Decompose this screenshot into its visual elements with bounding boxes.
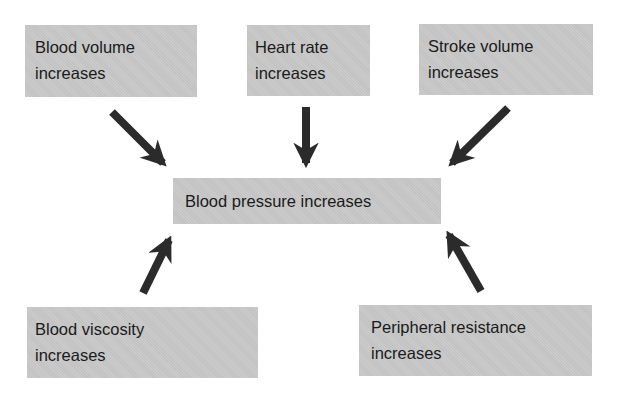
cause-label-line2: increases [371,340,582,366]
cause-label-line1: Peripheral resistance [371,314,582,340]
cause-label-line1: Stroke volume [428,33,583,59]
cause-box-blood-viscosity: Blood viscosity increases [27,307,258,378]
cause-label-line2: increases [35,342,248,368]
cause-box-heart-rate: Heart rate increases [247,25,370,96]
cause-label-line1: Heart rate [255,34,360,60]
cause-label-line2: increases [428,59,583,85]
cause-box-blood-volume: Blood volume increases [25,25,197,97]
cause-box-stroke-volume: Stroke volume increases [419,24,593,95]
cause-label-line1: Blood volume [35,34,187,60]
cause-label-line2: increases [35,60,187,86]
cause-label-line2: increases [255,60,360,86]
cause-box-peripheral-resistance: Peripheral resistance increases [359,305,592,376]
arrow-peripheral-resistance-to-pressure [449,235,481,291]
cause-label-line1: Blood viscosity [35,316,248,342]
center-label: Blood pressure increases [185,188,441,214]
arrow-stroke-volume-to-pressure [452,108,508,163]
arrow-blood-volume-to-pressure [112,112,163,163]
center-box-blood-pressure: Blood pressure increases [173,178,441,224]
arrow-blood-viscosity-to-pressure [143,240,169,293]
